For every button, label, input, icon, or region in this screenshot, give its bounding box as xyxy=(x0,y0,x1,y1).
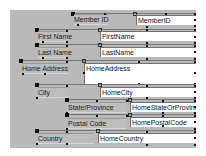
size-handle-icon[interactable] xyxy=(162,100,164,102)
size-handle-icon[interactable] xyxy=(194,131,196,133)
size-handle-icon[interactable] xyxy=(36,97,38,99)
size-handle-icon[interactable] xyxy=(146,26,148,28)
size-handle-icon[interactable] xyxy=(104,13,106,15)
selection-outline xyxy=(36,29,196,30)
size-handle-icon[interactable] xyxy=(146,45,148,47)
size-handle-icon[interactable] xyxy=(42,41,44,43)
size-handle-icon[interactable] xyxy=(42,57,44,59)
selection-outline xyxy=(20,60,196,61)
size-handle-icon[interactable] xyxy=(194,72,196,74)
size-handle-icon[interactable] xyxy=(194,137,196,139)
textbox-first-name[interactable]: FirstName xyxy=(100,31,196,41)
size-handle-icon[interactable] xyxy=(194,100,196,102)
size-handle-icon[interactable] xyxy=(194,106,196,108)
label-postal-code[interactable]: Postal Code xyxy=(68,118,126,129)
size-handle-icon[interactable] xyxy=(66,45,68,47)
size-handle-icon[interactable] xyxy=(36,143,38,145)
label-city[interactable]: City xyxy=(38,87,68,98)
selection-outline xyxy=(36,130,196,131)
textbox-city[interactable]: HomeCity xyxy=(100,87,196,97)
size-handle-icon[interactable] xyxy=(194,121,196,123)
size-handle-icon[interactable] xyxy=(66,131,68,133)
size-handle-icon[interactable] xyxy=(66,57,68,59)
label-member-id[interactable]: Member ID xyxy=(74,14,108,25)
selection-outline xyxy=(36,44,196,45)
size-handle-icon[interactable] xyxy=(194,13,196,15)
label-state-province[interactable]: State/Province xyxy=(68,102,126,113)
size-handle-icon[interactable] xyxy=(194,51,196,53)
size-handle-icon[interactable] xyxy=(194,36,196,38)
size-handle-icon[interactable] xyxy=(146,144,148,146)
size-handle-icon[interactable] xyxy=(146,85,148,87)
size-handle-icon[interactable] xyxy=(194,25,196,27)
textbox-home-address[interactable]: HomeAddress xyxy=(84,63,196,84)
selection-outline xyxy=(36,84,196,85)
size-handle-icon[interactable] xyxy=(66,41,68,43)
textbox-country[interactable]: HomeCountry xyxy=(98,133,196,143)
label-move-handle-icon[interactable] xyxy=(65,113,69,117)
size-handle-icon[interactable] xyxy=(194,115,196,117)
textbox-state-province[interactable]: HomeStateOrProvinc xyxy=(130,102,196,112)
size-handle-icon[interactable] xyxy=(22,73,24,75)
size-handle-icon[interactable] xyxy=(165,13,167,15)
size-handle-icon[interactable] xyxy=(194,45,196,47)
size-handle-icon[interactable] xyxy=(96,100,98,102)
size-handle-icon[interactable] xyxy=(194,61,196,63)
size-handle-icon[interactable] xyxy=(66,30,68,32)
size-handle-icon[interactable] xyxy=(162,125,164,127)
size-handle-icon[interactable] xyxy=(96,115,98,117)
size-handle-icon[interactable] xyxy=(66,143,68,145)
size-handle-icon[interactable] xyxy=(138,61,140,63)
size-handle-icon[interactable] xyxy=(194,144,196,146)
size-handle-icon[interactable] xyxy=(194,29,196,31)
size-handle-icon[interactable] xyxy=(194,91,196,93)
size-handle-icon[interactable] xyxy=(194,19,196,21)
size-handle-icon[interactable] xyxy=(44,73,46,75)
size-handle-icon[interactable] xyxy=(77,24,79,26)
size-handle-icon[interactable] xyxy=(162,115,164,117)
size-handle-icon[interactable] xyxy=(66,85,68,87)
size-handle-icon[interactable] xyxy=(194,85,196,87)
size-handle-icon[interactable] xyxy=(83,72,85,74)
textbox-member-id[interactable]: MemberID xyxy=(136,15,196,25)
size-handle-icon[interactable] xyxy=(146,29,148,31)
size-handle-icon[interactable] xyxy=(66,61,68,63)
textbox-last-name[interactable]: LastName xyxy=(100,47,196,57)
size-handle-icon[interactable] xyxy=(146,131,148,133)
